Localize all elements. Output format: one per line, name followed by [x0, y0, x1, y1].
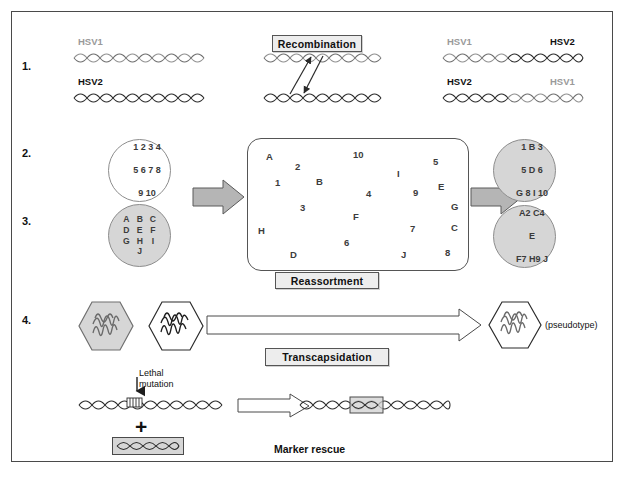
dna-duplex-hsv2-parental: [74, 90, 204, 106]
input-circle-letters: A D G B E H J C F I: [108, 204, 171, 267]
letter-G: G: [123, 236, 130, 247]
letter-C: C: [150, 214, 156, 225]
pool-item-D: D: [290, 249, 297, 260]
letters-column-2: B E H J: [137, 214, 143, 256]
letter-I: I: [150, 236, 156, 247]
letter-F: F: [150, 225, 156, 236]
pool-item-E: E: [438, 181, 444, 192]
letters-column-3: C F I: [150, 214, 156, 246]
pool-item-C: C: [451, 222, 458, 233]
dna-duplex-recombinant-top: [443, 50, 583, 66]
input-circle-numbers: 1 2 3 4 5 6 7 8 9 10: [108, 139, 171, 202]
letter-J: J: [137, 246, 143, 257]
pseudotype-label: (pseudotype): [545, 320, 598, 330]
dna-duplex-hsv1-parental: [74, 50, 204, 66]
output-circle-top: 1 B 3 5 D 6 G 8 I 10: [493, 139, 556, 202]
pool-item-B: B: [316, 176, 323, 187]
hsv2-label-left-bottom: HSV2: [78, 76, 103, 87]
dna-duplex-mutant: [79, 396, 225, 414]
rescue-fragment-boxed: [112, 437, 184, 455]
marker-rescue-caption: Marker rescue: [274, 443, 345, 455]
capsid-pseudotype-icon: [488, 300, 542, 350]
pool-items-host: A21051BI49E3GF7CH6DJ8: [248, 139, 468, 270]
pool-item-H: H: [258, 225, 265, 236]
letter-D: D: [123, 225, 130, 236]
row-number-4: 4.: [22, 314, 31, 326]
row-number-2: 2.: [22, 147, 31, 159]
dna-duplex-rescued: [300, 396, 452, 414]
pool-item-1: 1: [275, 177, 280, 188]
input-circle-letters-text: A D G B E H J C F I: [123, 214, 156, 256]
row-number-1: 1.: [22, 60, 31, 72]
letter-A: A: [123, 214, 130, 225]
figure-canvas: 1. 2. 3. 4. HSV1 HSV2 Recombination: [0, 0, 625, 479]
lethal-mutation-line-2: mutation: [139, 379, 174, 389]
pool-item-8: 8: [445, 247, 450, 258]
input-circle-numbers-text: 1 2 3 4 5 6 7 8 9 10: [118, 130, 161, 211]
letter-H: H: [137, 236, 143, 247]
lethal-mutation-label: Lethal mutation: [139, 368, 174, 390]
dna-duplex-recombinant-bottom: [443, 90, 583, 106]
transcapsidation-arrow-icon: [207, 308, 482, 342]
pool-item-J: J: [401, 249, 406, 260]
output-circle-bottom-text: A2 C4 E F7 H9 J: [501, 196, 548, 277]
output-bottom-line-2: E: [529, 231, 535, 241]
letters-column-1: A D G: [123, 214, 130, 246]
pool-item-G: G: [451, 201, 458, 212]
numbers-line-3: 9 10: [138, 188, 156, 198]
block-arrow-left-icon: [193, 178, 245, 216]
row-number-3: 3.: [22, 215, 31, 227]
reassortment-label: Reassortment: [275, 272, 379, 289]
pool-item-2: 2: [295, 161, 300, 172]
output-bottom-line-1: A2 C4: [519, 208, 545, 218]
letter-B: B: [137, 214, 143, 225]
pool-item-I: I: [397, 168, 400, 179]
hsv1-label-left-top: HSV1: [78, 36, 103, 47]
capsid-gray-icon: [78, 300, 134, 352]
crossover-arrows: [286, 52, 332, 100]
numbers-line-2: 5 6 7 8: [133, 165, 161, 175]
pool-item-9: 9: [413, 187, 418, 198]
pool-item-5: 5: [433, 156, 438, 167]
hsv2-label-right-bottom: HSV2: [447, 76, 472, 87]
capsid-white-icon: [148, 300, 204, 352]
pool-item-7: 7: [410, 223, 415, 234]
hsv1-label-right-bottom: HSV1: [550, 76, 575, 87]
pool-item-6: 6: [344, 237, 349, 248]
numbers-line-1: 1 2 3 4: [133, 142, 161, 152]
pool-item-A: A: [266, 151, 273, 162]
output-bottom-line-3: F7 H9 J: [516, 254, 548, 264]
output-top-line-2: 5 D 6: [521, 165, 543, 175]
gene-segment-pool: A21051BI49E3GF7CH6DJ8: [247, 138, 469, 271]
pool-item-10: 10: [353, 149, 364, 160]
transcapsidation-label: Transcapsidation: [265, 348, 389, 366]
output-top-line-1: 1 B 3: [521, 142, 543, 152]
letter-E: E: [137, 225, 143, 236]
plus-sign: +: [135, 416, 147, 437]
output-circle-bottom: A2 C4 E F7 H9 J: [493, 205, 556, 268]
pool-item-4: 4: [366, 188, 371, 199]
pool-item-3: 3: [300, 202, 305, 213]
hsv2-label-right-top: HSV2: [550, 36, 575, 47]
pool-item-F: F: [353, 211, 359, 222]
hsv1-label-right-top: HSV1: [447, 36, 472, 47]
